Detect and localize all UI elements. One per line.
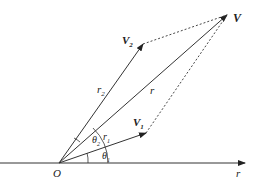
label-v: V <box>233 11 242 25</box>
theta1-arc <box>87 153 88 163</box>
vector-diagram: V V2 V1 r r2 r1 θ2 θ1 O r <box>0 0 260 188</box>
vector-v <box>59 15 227 163</box>
vector-v2 <box>59 44 143 163</box>
label-r2: r2 <box>97 83 105 98</box>
label-r1: r1 <box>103 131 110 144</box>
label-theta2: θ2 <box>92 134 100 147</box>
label-v2: V2 <box>122 34 133 49</box>
dashed-v2-to-v <box>143 15 227 44</box>
label-origin: O <box>53 167 61 179</box>
label-r: r <box>150 84 155 96</box>
label-axis-r: r <box>236 167 241 179</box>
label-theta1: θ1 <box>102 150 110 163</box>
label-v1: V1 <box>133 116 144 131</box>
dashed-v1-to-v <box>146 15 227 133</box>
